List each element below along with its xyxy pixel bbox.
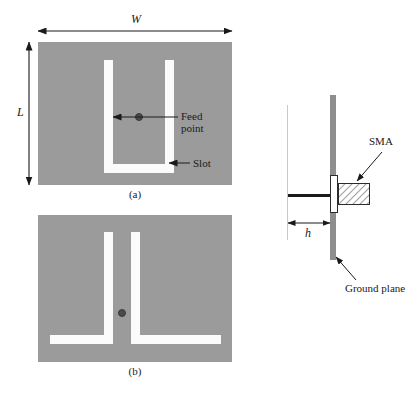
caption-a: (a) xyxy=(115,188,155,200)
slot-b-left-horizontal xyxy=(50,335,113,344)
patch-b xyxy=(38,215,232,362)
feed-point-dot-b xyxy=(118,309,126,317)
slot-b-left-vertical xyxy=(104,232,113,344)
slot-leader-line xyxy=(0,0,260,200)
slot-b-right-vertical xyxy=(131,232,140,344)
ground-plane-leader-line xyxy=(260,0,416,394)
antenna-figure: W L Feed point Slot (a) xyxy=(0,0,416,394)
side-view: h SMA Ground plane xyxy=(260,0,416,394)
panel-a: W L Feed point Slot (a) xyxy=(0,0,260,200)
caption-b: (b) xyxy=(115,365,155,377)
ground-plane-label: Ground plane xyxy=(345,282,405,294)
panel-b: (b) xyxy=(0,200,260,394)
slot-b-right-horizontal xyxy=(131,335,221,344)
slot-label: Slot xyxy=(193,157,211,169)
